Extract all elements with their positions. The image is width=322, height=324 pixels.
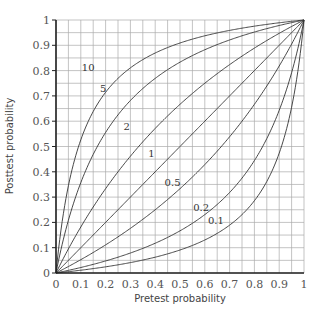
y-tick-label: 0.4 [33,166,51,179]
y-tick-label: 0 [43,267,50,280]
y-axis-title: Posttest probability [4,98,15,195]
y-tick-label: 0.1 [33,242,51,255]
y-tick-labels: 00.10.20.30.40.50.60.70.80.91 [33,14,57,280]
curve-label-0.1: 0.1 [208,215,224,226]
x-tick-label: 0.7 [221,278,239,291]
x-tick-label: 0.8 [246,278,264,291]
x-tick-label: 0.4 [146,278,164,291]
curve-label-10: 10 [82,62,95,73]
x-tick-label: 0.9 [270,278,288,291]
y-tick-label: 0.6 [33,115,51,128]
y-tick-label: 0.8 [33,65,51,78]
y-tick-label: 0.3 [33,191,51,204]
x-tick-label: 1 [301,278,308,291]
x-tick-label: 0 [53,278,60,291]
likelihood-ratio-chart: 00.10.20.30.40.50.60.70.80.91 00.10.20.3… [0,0,322,324]
x-tick-labels: 00.10.20.30.40.50.60.70.80.91 [53,278,308,291]
x-tick-label: 0.3 [122,278,140,291]
curve-label-0.5: 0.5 [165,177,181,188]
x-axis-title: Pretest probability [134,293,226,304]
x-tick-label: 0.2 [97,278,115,291]
y-tick-label: 0.5 [33,141,51,154]
y-tick-label: 0.9 [33,39,51,52]
x-tick-label: 0.1 [72,278,90,291]
curve-labels: 105210.50.20.1 [82,62,224,226]
curve-label-0.2: 0.2 [193,202,209,213]
curve-label-2: 2 [123,121,129,132]
y-tick-label: 0.7 [33,90,51,103]
x-tick-label: 0.6 [196,278,214,291]
curve-label-1: 1 [148,148,154,159]
y-tick-label: 1 [43,14,50,27]
curve-label-5: 5 [100,83,106,94]
x-tick-label: 0.5 [171,278,189,291]
y-tick-label: 0.2 [33,216,51,229]
